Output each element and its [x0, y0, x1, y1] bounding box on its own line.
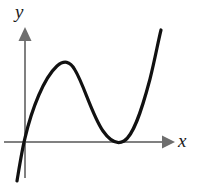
- y-axis-label: y: [15, 2, 23, 21]
- arrow-right-icon: [162, 136, 175, 149]
- quartic-curve: [17, 30, 161, 181]
- arrow-up-icon: [19, 27, 32, 41]
- graph-canvas: [0, 0, 198, 195]
- graph-figure: y x: [0, 0, 198, 195]
- x-axis-label: x: [178, 131, 186, 150]
